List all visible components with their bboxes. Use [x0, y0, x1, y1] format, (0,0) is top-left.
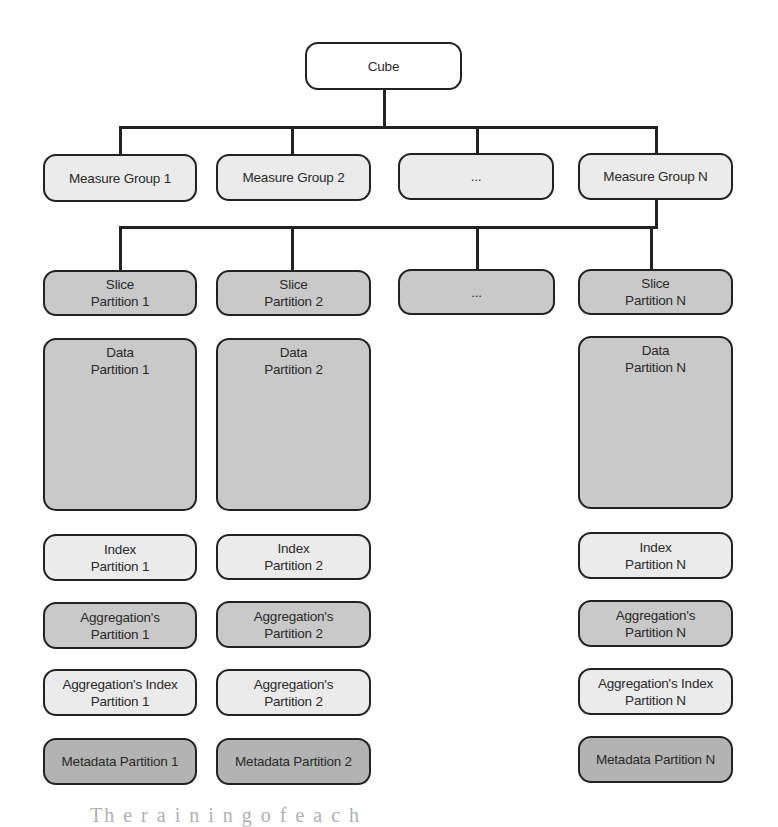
data-partition-2-node: Data Partition 2: [216, 338, 371, 511]
slice-line2: Partition N: [625, 292, 686, 309]
metadata-partition-n-node: Metadata Partition N: [578, 736, 733, 783]
data-partition-1-node: Data Partition 1: [43, 338, 197, 511]
cube-node: Cube: [305, 42, 462, 90]
aggregations-line1: Aggregation's: [254, 608, 334, 625]
aggregation-index-partition-n-node: Aggregation's Index Partition N: [578, 668, 733, 715]
measure-group-label: Measure Group 1: [69, 170, 171, 187]
slice-partition-n-node: Slice Partition N: [578, 269, 733, 315]
data-line1: Data: [280, 344, 308, 361]
metadata-label: Metadata Partition 2: [235, 753, 352, 770]
data-line1: Data: [106, 344, 134, 361]
aggregation-index-line2: Partition 1: [91, 693, 150, 710]
aggregation-index-partition-2-node: Aggregation's Partition 2: [216, 669, 371, 716]
connector-mg1: [119, 126, 122, 155]
aggregations-partition-n-node: Aggregation's Partition N: [578, 600, 733, 647]
measure-group-label: ...: [471, 168, 482, 185]
connector-bus-measure-groups: [119, 126, 658, 129]
measure-group-label: Measure Group N: [603, 168, 707, 185]
connector-mg2: [291, 126, 294, 155]
aggregation-index-line2: Partition 2: [264, 693, 323, 710]
cube-label: Cube: [368, 58, 399, 75]
index-line2: Partition 2: [264, 557, 323, 574]
index-line1: Index: [639, 539, 671, 556]
connector-slice2: [291, 226, 294, 271]
clipped-caption-text: Th e r a i n i n g o f e a c h: [90, 804, 361, 827]
slice-line1: Slice: [279, 276, 307, 293]
slice-line2: Partition 2: [264, 293, 323, 310]
measure-group-label: Measure Group 2: [242, 169, 344, 186]
slice-partition-1-node: Slice Partition 1: [43, 270, 197, 316]
connector-mg-ellipsis: [476, 126, 479, 155]
data-partition-n-node: Data Partition N: [578, 336, 733, 509]
aggregations-partition-1-node: Aggregation's Partition 1: [43, 602, 197, 649]
metadata-partition-1-node: Metadata Partition 1: [43, 738, 197, 785]
measure-group-1-node: Measure Group 1: [43, 154, 197, 202]
slice-line1: Slice: [641, 275, 669, 292]
aggregation-index-line1: Aggregation's: [254, 676, 334, 693]
aggregation-index-partition-1-node: Aggregation's Index Partition 1: [43, 669, 197, 716]
slice-line1: Slice: [106, 276, 134, 293]
index-partition-2-node: Index Partition 2: [216, 534, 371, 580]
connector-slice1: [119, 226, 122, 271]
aggregation-index-line1: Aggregation's Index: [62, 676, 177, 693]
data-line1: Data: [642, 342, 670, 359]
aggregations-partition-2-node: Aggregation's Partition 2: [216, 601, 371, 648]
aggregation-index-line2: Partition N: [625, 692, 686, 709]
aggregations-line2: Partition N: [625, 624, 686, 641]
index-line2: Partition 1: [91, 558, 150, 575]
aggregations-line2: Partition 1: [91, 626, 150, 643]
slice-ellipsis-node: ...: [398, 269, 555, 315]
metadata-label: Metadata Partition N: [596, 751, 715, 768]
connector-slice-ellipsis: [476, 226, 479, 271]
slice-line1: ...: [471, 284, 482, 301]
connector-mgn-down: [655, 200, 658, 228]
data-line2: Partition 1: [91, 361, 150, 378]
connector-cube-down: [383, 89, 386, 128]
data-line2: Partition 2: [264, 361, 323, 378]
metadata-partition-2-node: Metadata Partition 2: [216, 738, 371, 785]
slice-partition-2-node: Slice Partition 2: [216, 270, 371, 316]
aggregations-line1: Aggregation's: [616, 607, 696, 624]
measure-group-n-node: Measure Group N: [578, 153, 733, 200]
connector-mgn: [655, 126, 658, 155]
metadata-label: Metadata Partition 1: [62, 753, 179, 770]
index-line1: Index: [104, 541, 136, 558]
aggregation-index-line1: Aggregation's Index: [598, 675, 713, 692]
data-line2: Partition N: [625, 359, 686, 376]
measure-group-ellipsis-node: ...: [398, 153, 554, 200]
connector-slicen: [650, 226, 653, 271]
connector-bus-slices: [119, 226, 658, 229]
index-partition-1-node: Index Partition 1: [43, 534, 197, 581]
slice-line2: Partition 1: [91, 293, 150, 310]
measure-group-2-node: Measure Group 2: [216, 154, 371, 201]
index-partition-n-node: Index Partition N: [578, 532, 733, 579]
aggregations-line2: Partition 2: [264, 625, 323, 642]
index-line2: Partition N: [625, 556, 686, 573]
aggregations-line1: Aggregation's: [80, 609, 160, 626]
index-line1: Index: [277, 540, 309, 557]
